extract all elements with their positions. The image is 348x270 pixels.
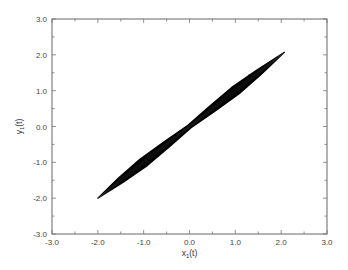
x-tick-label: 3.0 (321, 238, 333, 247)
trajectory-band (98, 52, 285, 198)
y-tick-label: 1.0 (36, 87, 48, 96)
x-tick-label: 2.0 (276, 238, 288, 247)
x-axis-label: x1(t) (182, 248, 198, 259)
y-tick-label: -3.0 (33, 230, 47, 239)
y-tick-label: 0.0 (36, 123, 48, 132)
y-tick-label: -1.0 (33, 158, 47, 167)
x-tick-label: -1.0 (137, 238, 151, 247)
y-tick-label: 2.0 (36, 51, 48, 60)
x-tick-label: -2.0 (91, 238, 105, 247)
y-tick-label: 3.0 (36, 15, 48, 24)
x-tick-label: 1.0 (230, 238, 242, 247)
y-axis-label: y1(t) (14, 119, 25, 135)
x-tick-label: 0.0 (184, 238, 196, 247)
phase-plot: -3.0-2.0-1.00.01.02.03.0-3.0-2.0-1.00.01… (0, 0, 348, 270)
y-tick-label: -2.0 (33, 194, 47, 203)
x-tick-label: -3.0 (45, 238, 59, 247)
